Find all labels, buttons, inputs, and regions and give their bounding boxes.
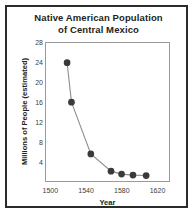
line-series (46, 43, 169, 181)
data-point-marker (118, 171, 125, 178)
chart-figure: Native American Population of Central Me… (5, 5, 188, 208)
chart-title: Native American Population of Central Me… (7, 12, 190, 35)
x-tick-label: 1580 (105, 187, 139, 195)
x-tick-label: 1500 (33, 187, 67, 195)
y-axis-title: Millions of People (estimated) (20, 37, 29, 187)
x-tick-label: 1540 (69, 187, 103, 195)
data-point-marker (108, 168, 115, 175)
chart-title-line-1: Native American Population (7, 12, 190, 24)
plot-frame (45, 42, 170, 182)
series-line (67, 63, 146, 176)
data-point-marker (87, 151, 94, 158)
x-axis-title: Year (45, 198, 170, 207)
data-point-marker (64, 59, 71, 66)
chart-title-line-2: of Central Mexico (7, 24, 190, 36)
data-point-marker (130, 172, 137, 179)
plot-area (46, 43, 169, 181)
data-point-marker (143, 172, 150, 179)
x-tick-label: 1620 (141, 187, 175, 195)
data-point-marker (68, 99, 75, 106)
